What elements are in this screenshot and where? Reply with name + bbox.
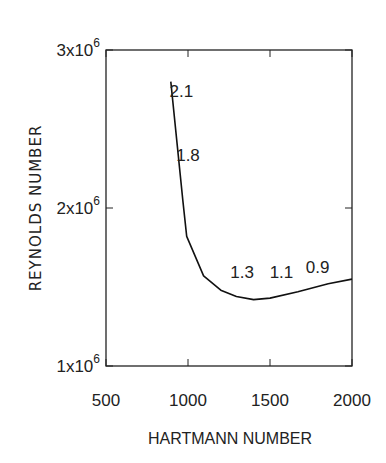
- x-tick-label: 2000: [333, 391, 371, 410]
- x-tick-label: 1500: [251, 391, 289, 410]
- curve-label: 1.3: [230, 263, 254, 282]
- x-tick-labels: 500100015002000: [92, 391, 371, 410]
- curve-label: 1.8: [176, 146, 200, 165]
- y-tick-label: 2x106: [56, 194, 100, 218]
- y-tick-label: 3x106: [56, 36, 100, 60]
- y-tick-label: 1x106: [56, 352, 100, 376]
- x-tick-label: 500: [92, 391, 120, 410]
- axis-ticks: [106, 50, 352, 366]
- chart: 500100015002000 1x1062x1063x106 2.11.81.…: [0, 0, 386, 463]
- curve-label: 0.9: [306, 258, 330, 277]
- curve-label: 1.1: [270, 263, 294, 282]
- plot-border: [106, 50, 352, 366]
- x-tick-label: 1000: [169, 391, 207, 410]
- y-axis-title: REYNOLDS NUMBER: [27, 125, 45, 292]
- x-axis-title: HARTMANN NUMBER: [148, 430, 312, 447]
- curve-label: 2.1: [170, 82, 194, 101]
- plot-frame: [106, 50, 352, 366]
- y-tick-labels: 1x1062x1063x106: [56, 36, 100, 376]
